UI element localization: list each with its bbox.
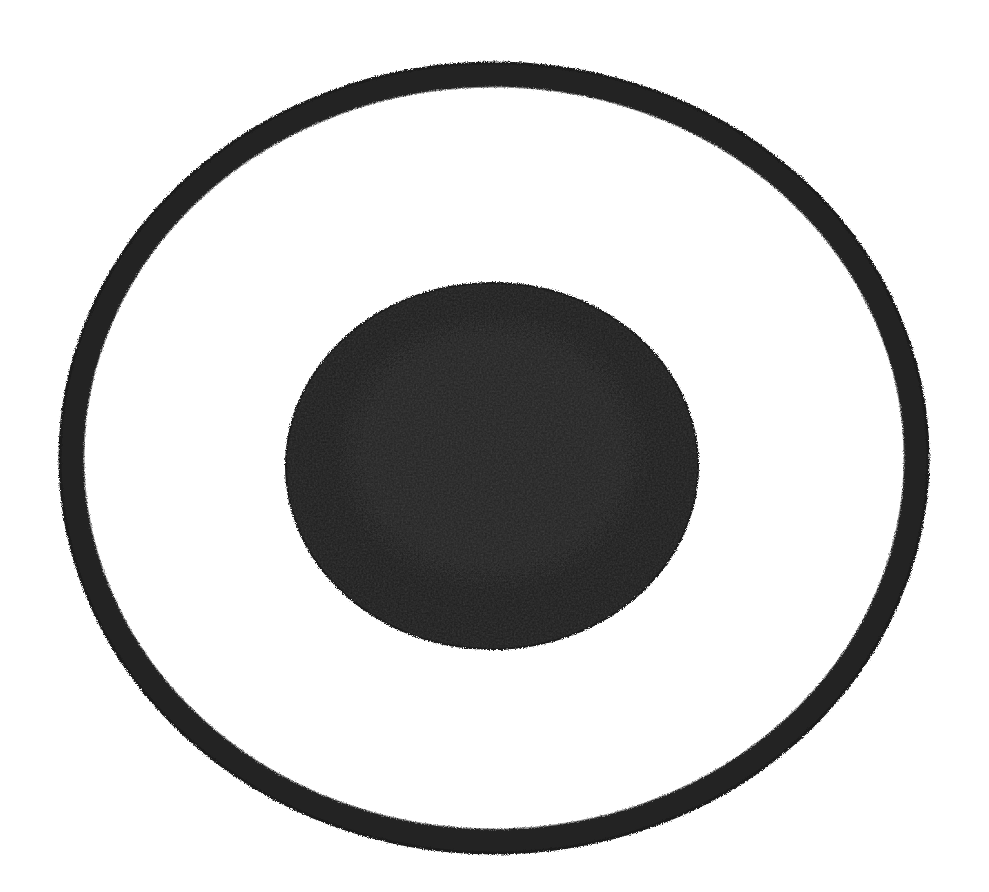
inner-disc-grain-overlay bbox=[287, 284, 697, 648]
inner-disc-group bbox=[285, 282, 699, 650]
concentric-circles-drawing bbox=[0, 0, 989, 892]
figure-canvas: Concentric circles ink drawing A large t… bbox=[0, 0, 989, 892]
